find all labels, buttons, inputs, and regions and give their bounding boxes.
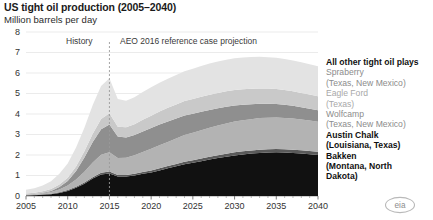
x-axis-tick-label: 2030 bbox=[215, 202, 255, 211]
x-axis-tick-label: 2010 bbox=[48, 202, 88, 211]
legend-item-label: Spraberry bbox=[326, 67, 433, 77]
y-axis-tick-label: 1 bbox=[4, 171, 20, 180]
x-axis-tick-label: 2025 bbox=[173, 202, 213, 211]
x-axis-tick-label: 2005 bbox=[6, 202, 46, 211]
x-axis-tick-label: 2035 bbox=[256, 202, 296, 211]
x-axis-tick-label: 2015 bbox=[89, 202, 129, 211]
legend-item-label: Austin Chalk bbox=[326, 130, 433, 140]
legend-item-sublabel: Dakota) bbox=[326, 171, 433, 181]
chart-legend: All other tight oil playsSpraberry(Texas… bbox=[326, 57, 433, 182]
legend-item-label: Wolfcamp bbox=[326, 109, 433, 119]
y-axis-tick-label: 4 bbox=[4, 110, 20, 119]
y-axis-tick-label: 2 bbox=[4, 151, 20, 160]
legend-item-sublabel: (Texas) bbox=[326, 99, 433, 109]
y-axis-tick-label: 0 bbox=[4, 192, 20, 201]
legend-item-sublabel: (Montana, North bbox=[326, 161, 433, 171]
projection-annotation: AEO 2016 reference case projection bbox=[120, 36, 257, 46]
y-axis-tick-label: 5 bbox=[4, 89, 20, 98]
y-axis-tick-label: 3 bbox=[4, 130, 20, 139]
svg-text:eia: eia bbox=[395, 201, 406, 210]
history-annotation: History bbox=[66, 36, 92, 46]
legend-item-sublabel: (Texas, New Mexico) bbox=[326, 78, 433, 88]
legend-item-sublabel: (Louisiana, Texas) bbox=[326, 140, 433, 150]
y-axis-tick-label: 8 bbox=[4, 28, 20, 37]
x-axis-tick-label: 2020 bbox=[131, 202, 171, 211]
y-axis-tick-label: 6 bbox=[4, 69, 20, 78]
legend-item-label: All other tight oil plays bbox=[326, 57, 433, 67]
eia-logo-icon: eia bbox=[383, 196, 417, 214]
y-axis-tick-label: 7 bbox=[4, 48, 20, 57]
x-axis-tick-label: 2040 bbox=[298, 202, 338, 211]
legend-item-label: Eagle Ford bbox=[326, 88, 433, 98]
chart-container: US tight oil production (2005–2040) Mill… bbox=[0, 0, 433, 220]
legend-item-label: Bakken bbox=[326, 151, 433, 161]
legend-item-sublabel: (Texas, New Mexico) bbox=[326, 119, 433, 129]
